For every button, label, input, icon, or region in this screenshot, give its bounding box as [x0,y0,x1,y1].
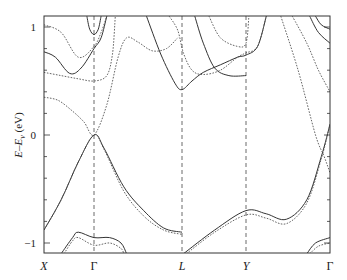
y-axis-title-main: E–E [12,138,24,158]
ytick-label-1: 1 [31,21,37,33]
y-axis-title: E–Ev (eV) [12,112,27,159]
band-structure-chart: 1 0 −1 E–Ev (eV) X Γ L Y Γ [0,0,347,280]
kpoint-label-Y: Y [243,259,251,273]
kpoint-label-X: X [39,259,48,273]
plot-frame [44,16,330,253]
band-valence-YG-solid [183,124,330,254]
band-conduction-right-solid-1 [310,16,330,43]
band-valence-low-right-dotted [310,243,330,254]
ytick-label-minus1: −1 [24,237,36,249]
band-conduction-1-solid [44,16,107,74]
band-conduction-Y-dotted [209,16,249,47]
kpoint-label-gamma-2: Γ [327,259,334,273]
band-conduction-right-dotted-1 [281,16,330,173]
high-symmetry-lines [94,16,246,253]
band-conduction-L2-solid [195,16,246,76]
band-conduction-2-dotted [44,37,178,135]
band-valence-low-right-solid [307,238,330,254]
band-valence-low-dotted [64,237,124,253]
ytick-label-0: 0 [31,129,37,141]
kpoint-label-gamma-1: Γ [91,259,98,273]
band-conduction-1-dotted [44,16,107,57]
band-curves [44,16,330,254]
band-conduction-right-dotted-2 [292,16,330,92]
band-valence-top-solid [44,135,182,233]
band-valence-top-dotted [44,135,182,235]
kpoint-label-L: L [178,259,186,273]
y-axis-title-unit: (eV) [12,112,25,135]
